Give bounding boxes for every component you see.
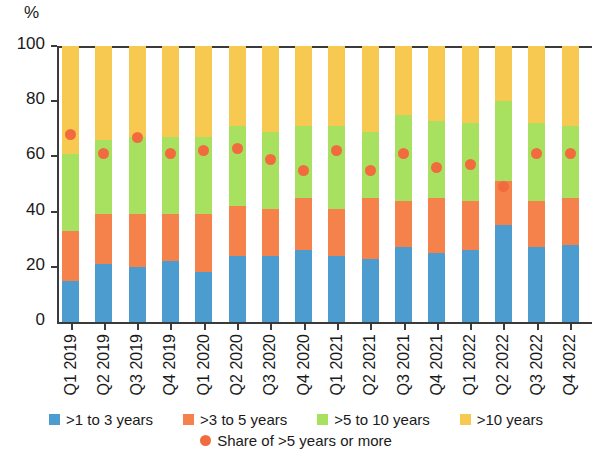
x-axis-tick-label-text: Q1 2019 (63, 334, 79, 395)
legend-swatch-icon (317, 414, 328, 425)
bar-segment (62, 281, 79, 322)
bar-segment (562, 198, 579, 245)
bar-segment (229, 206, 246, 256)
bar-segment (162, 261, 179, 322)
bar-segment (495, 101, 512, 181)
bar-segment (262, 46, 279, 132)
x-axis-tick-label: Q2 2022 (495, 334, 512, 412)
bar-segment (95, 214, 112, 264)
bar-segment (328, 46, 345, 126)
bar-segment (162, 46, 179, 137)
y-axis: 020406080100 (0, 46, 57, 322)
bar-segment (195, 46, 212, 137)
bar-q4-2022 (562, 46, 579, 322)
legend-item: >10 years (460, 412, 543, 427)
bar-q2-2019 (95, 46, 112, 322)
x-axis-tick-label: Q2 2021 (362, 334, 379, 412)
bar-q1-2020 (195, 46, 212, 322)
x-axis-tick-mark (104, 324, 106, 330)
x-axis-tick-mark (503, 324, 505, 330)
bar-segment (262, 256, 279, 322)
legend-item-label: >1 to 3 years (66, 412, 153, 427)
x-axis-tick-label: Q3 2022 (528, 334, 545, 412)
bar-segment (328, 126, 345, 209)
x-axis-tick-label: Q1 2019 (62, 334, 79, 412)
overlay-dot (165, 148, 176, 159)
bar-segment (362, 46, 379, 132)
overlay-dot (265, 154, 276, 165)
x-axis-tick-label: Q3 2020 (262, 334, 279, 412)
bar-segment (328, 256, 345, 322)
bar-q1-2019 (62, 46, 79, 322)
overlay-dot (65, 129, 76, 140)
bar-segment (428, 121, 445, 198)
overlay-dot (365, 165, 376, 176)
bar-segment (328, 209, 345, 256)
legend-item: >5 to 10 years (317, 412, 429, 427)
legend-item-label: >10 years (477, 412, 543, 427)
overlay-dot (298, 165, 309, 176)
x-axis-tick-label-text: Q2 2021 (362, 334, 378, 395)
bar-segment (229, 256, 246, 322)
bar-q3-2019 (129, 46, 146, 322)
x-axis-tick-label: Q1 2021 (328, 334, 345, 412)
bar-segment (295, 126, 312, 198)
legend-item-label: >3 to 5 years (200, 412, 287, 427)
x-axis-tick-label: Q3 2019 (129, 334, 146, 412)
bar-segment (395, 201, 412, 248)
bar-segment (562, 245, 579, 322)
x-axis-tick-mark (470, 324, 472, 330)
y-axis-tick-label: 40 (26, 201, 45, 218)
bar-segment (462, 201, 479, 251)
legend-swatch-icon (49, 414, 60, 425)
bar-segment (528, 201, 545, 248)
x-axis-tick-label: Q4 2019 (162, 334, 179, 412)
bar-q2-2020 (229, 46, 246, 322)
x-axis-tick-label-text: Q2 2019 (96, 334, 112, 395)
bar-segment (528, 46, 545, 123)
x-axis-tick-label-text: Q4 2021 (429, 334, 445, 395)
bar-segment (229, 46, 246, 126)
bar-q3-2020 (262, 46, 279, 322)
x-axis-tick-label-text: Q1 2020 (196, 334, 212, 395)
bar-segment (229, 126, 246, 206)
legend-swatch-icon (183, 414, 194, 425)
x-axis-tick-label: Q4 2021 (428, 334, 445, 412)
bar-segment (129, 46, 146, 137)
x-axis-tick-mark (304, 324, 306, 330)
x-axis-tick-label-text: Q1 2022 (462, 334, 478, 395)
x-axis-tick-label-text: Q4 2022 (562, 334, 578, 395)
bar-segment (428, 198, 445, 253)
x-axis-tick-mark (204, 324, 206, 330)
bar-segment (129, 267, 146, 322)
bar-segment (95, 264, 112, 322)
x-axis-tick-label-text: Q2 2020 (229, 334, 245, 395)
bar-q1-2022 (462, 46, 479, 322)
x-axis-tick-label-text: Q4 2019 (162, 334, 178, 395)
legend-item: Share of >5 years or more (200, 433, 392, 448)
x-axis-tick-label: Q4 2022 (562, 334, 579, 412)
y-axis-tick-label: 80 (26, 90, 45, 107)
x-axis-tick-label: Q1 2020 (195, 334, 212, 412)
legend-item-label: >5 to 10 years (334, 412, 429, 427)
y-axis-tick-label: 60 (26, 145, 45, 162)
bar-segment (62, 231, 79, 281)
x-axis-tick-mark (337, 324, 339, 330)
bar-segment (95, 46, 112, 140)
overlay-dot (132, 132, 143, 143)
x-axis-tick-label-text: Q3 2022 (529, 334, 545, 395)
bar-segment (195, 272, 212, 322)
legend-item-label: Share of >5 years or more (217, 433, 392, 448)
bar-segment (462, 250, 479, 322)
legend-dot-icon (200, 435, 211, 446)
bar-segment (395, 247, 412, 322)
bar-segment (362, 259, 379, 322)
x-axis-tick-label: Q4 2020 (295, 334, 312, 412)
bar-segment (528, 123, 545, 200)
bar-segment (129, 137, 146, 214)
x-axis-tick-label: Q2 2019 (95, 334, 112, 412)
bar-q3-2021 (395, 46, 412, 322)
bar-segment (362, 198, 379, 259)
x-axis-tick-mark (270, 324, 272, 330)
y-axis-tick-label: 0 (36, 311, 45, 328)
